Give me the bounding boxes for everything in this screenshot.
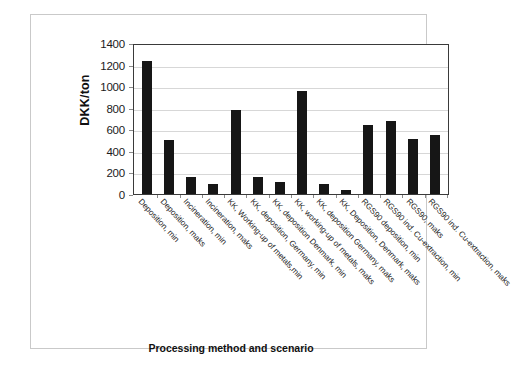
bar-slot — [380, 45, 402, 194]
y-axis-tick-label: 1400 — [100, 38, 125, 50]
x-axis-title: Processing method and scenario — [61, 342, 401, 354]
bar — [408, 139, 418, 194]
x-axis-tick-mark — [380, 195, 381, 198]
bar-slot — [158, 45, 180, 194]
bar-slot — [269, 45, 291, 194]
bar — [186, 177, 196, 194]
bar-slot — [335, 45, 357, 194]
bar — [142, 61, 152, 194]
bar — [341, 190, 351, 194]
y-axis-tick-label: 0 — [119, 189, 125, 201]
bar — [164, 140, 174, 195]
bar — [231, 110, 241, 194]
x-axis-tick-mark — [447, 195, 448, 198]
y-axis-tick-label: 1200 — [100, 60, 125, 72]
x-axis-tick-mark — [202, 195, 203, 198]
bar — [430, 135, 440, 194]
x-axis-tick-mark — [336, 195, 337, 198]
bar-slot — [313, 45, 335, 194]
x-axis-tick-mark — [402, 195, 403, 198]
bar-series — [134, 45, 448, 194]
x-axis-tick-mark — [358, 195, 359, 198]
bar — [208, 184, 218, 194]
x-axis-tick-mark — [180, 195, 181, 198]
bar — [386, 121, 396, 194]
bar — [275, 182, 285, 194]
bar-slot — [136, 45, 158, 194]
y-axis-tick-label: 1000 — [100, 81, 125, 93]
x-axis-tick-mark — [425, 195, 426, 198]
bar-slot — [291, 45, 313, 194]
x-axis-tick-mark — [246, 195, 247, 198]
bar — [319, 184, 329, 194]
bar-slot — [247, 45, 269, 194]
bar — [297, 91, 307, 195]
bar-slot — [402, 45, 424, 194]
x-axis-tick-mark — [157, 195, 158, 198]
bar — [363, 125, 373, 194]
y-axis-tick-mark — [129, 195, 133, 196]
x-axis-tick-label: RGS90 ind. Cu-extraction, maks — [426, 197, 512, 288]
bar-slot — [225, 45, 247, 194]
bar-slot — [424, 45, 446, 194]
y-axis-tick-label: 800 — [106, 103, 125, 115]
x-axis-tick-labels: Deposition, minDeposition, maksIncinerat… — [133, 197, 453, 347]
y-axis-tick-labels: 1400120010008006004002000 — [75, 37, 129, 202]
x-axis-tick-mark — [224, 195, 225, 198]
y-axis-tick-label: 400 — [106, 146, 125, 158]
y-axis-tick-label: 600 — [106, 124, 125, 136]
bar-slot — [357, 45, 379, 194]
figure-frame: DKK/ton 1400120010008006004002000 Deposi… — [30, 14, 427, 349]
bar — [253, 177, 263, 194]
x-axis-tick-mark — [269, 195, 270, 198]
plot-area — [133, 44, 449, 195]
y-axis-tick-label: 200 — [106, 167, 125, 179]
bar-slot — [202, 45, 224, 194]
x-axis-tick-mark — [313, 195, 314, 198]
bar-slot — [180, 45, 202, 194]
x-axis-tick-mark — [291, 195, 292, 198]
